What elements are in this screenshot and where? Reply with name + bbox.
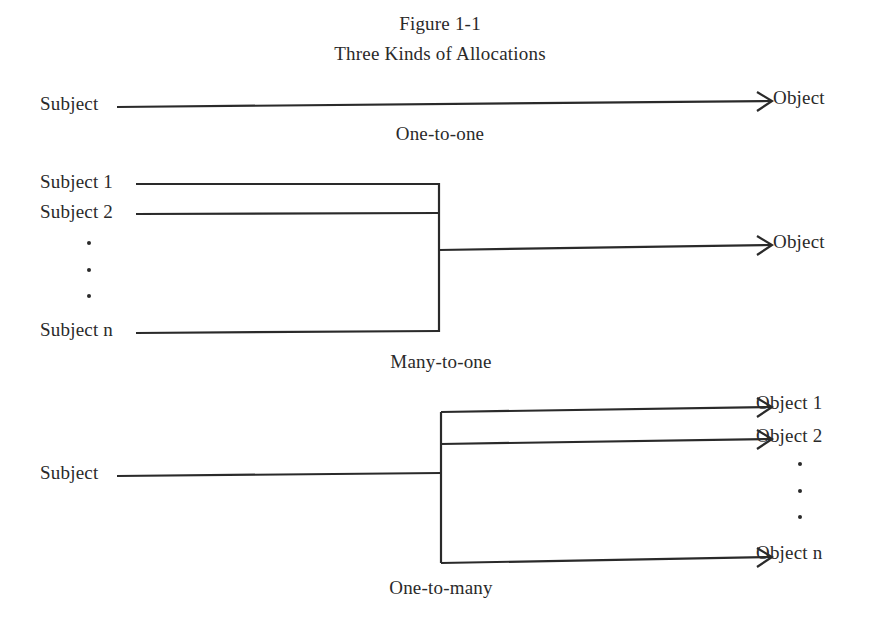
ellipsis-dot bbox=[798, 489, 802, 493]
one-to-many-caption: One-to-many bbox=[389, 578, 493, 597]
many-to-one-subject-2-label: Subject 2 bbox=[40, 202, 113, 221]
one-to-one-object-label: Object bbox=[773, 88, 825, 107]
one-to-many-subject-label: Subject bbox=[40, 463, 98, 482]
one-to-many-object-1-label: Object 1 bbox=[756, 393, 823, 412]
ellipsis-dot bbox=[798, 462, 802, 466]
diagram-connectors bbox=[0, 0, 879, 626]
many-to-one-caption: Many-to-one bbox=[390, 352, 491, 371]
ellipsis-dot bbox=[798, 515, 802, 519]
many-to-one-subject-n-label: Subject n bbox=[40, 320, 113, 339]
many-to-one-object-label: Object bbox=[773, 232, 825, 251]
one-to-one-connector bbox=[117, 92, 772, 111]
one-to-one-subject-label: Subject bbox=[40, 94, 98, 113]
one-to-many-object-2-label: Object 2 bbox=[756, 426, 823, 445]
ellipsis-dot bbox=[87, 268, 91, 272]
one-to-many-object-n-label: Object n bbox=[756, 543, 823, 562]
one-to-many-connector bbox=[117, 398, 772, 567]
many-to-one-connector bbox=[136, 183, 772, 333]
ellipsis-dot bbox=[87, 294, 91, 298]
many-to-one-subject-1-label: Subject 1 bbox=[40, 172, 113, 191]
one-to-one-caption: One-to-one bbox=[396, 124, 485, 143]
ellipsis-dot bbox=[87, 241, 91, 245]
